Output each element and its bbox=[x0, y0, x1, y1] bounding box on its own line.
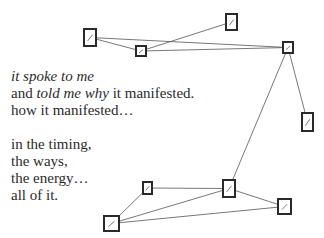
edge-n2-n3 bbox=[141, 22, 232, 51]
text-phrase: all of it. bbox=[11, 187, 58, 203]
poem-line: all of it. bbox=[11, 187, 194, 204]
text-phrase: in the timing, bbox=[11, 136, 91, 152]
text-phrase: how it manifested… bbox=[11, 102, 133, 118]
stanza-2: in the timing,the ways,the energy…all of… bbox=[11, 136, 194, 204]
italic-phrase: told me why bbox=[36, 85, 109, 101]
stanza-gap bbox=[11, 119, 194, 136]
poem-line: how it manifested… bbox=[11, 102, 194, 119]
poem-text: it spoke to meand told me why it manifes… bbox=[11, 68, 194, 204]
poem-line: in the timing, bbox=[11, 136, 194, 153]
text-phrase: it manifested. bbox=[109, 85, 194, 101]
edge-n6-n7 bbox=[229, 189, 285, 207]
edge-n1-n4 bbox=[90, 38, 288, 48]
text-phrase: the energy… bbox=[11, 170, 89, 186]
italic-phrase: it spoke to me bbox=[11, 68, 94, 84]
edge-n2-n4 bbox=[141, 48, 288, 52]
edge-n4-n5 bbox=[288, 48, 308, 123]
edge-n9-n7 bbox=[112, 207, 285, 224]
edge-n4-n6 bbox=[229, 48, 288, 189]
text-phrase: the ways, bbox=[11, 153, 68, 169]
stanza-1: it spoke to meand told me why it manifes… bbox=[11, 68, 194, 119]
text-phrase: and bbox=[11, 85, 36, 101]
poem-line: the energy… bbox=[11, 170, 194, 187]
poem-line: and told me why it manifested. bbox=[11, 85, 194, 102]
poem-line: the ways, bbox=[11, 153, 194, 170]
poem-line: it spoke to me bbox=[11, 68, 194, 85]
